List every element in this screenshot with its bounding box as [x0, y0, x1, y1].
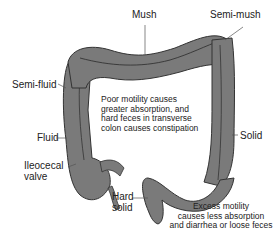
transverse-colon: [68, 36, 230, 88]
note-excess-motility: Excess motility causes less absorption a…: [166, 202, 276, 231]
note-line: colon causes constipation: [101, 124, 198, 134]
label-ileocecal-valve: Ileocecal valve: [24, 160, 63, 182]
note-line: and diarrhea or loose feces: [166, 221, 276, 231]
label-hard-solid-line1: Hard: [112, 191, 134, 202]
label-hard-solid-line2: solid: [112, 202, 134, 213]
note-poor-motility: Poor motility causes greater absorption,…: [101, 95, 198, 133]
label-fluid: Fluid: [37, 132, 59, 143]
label-mush: Mush: [132, 9, 156, 20]
label-hard-solid: Hard solid: [112, 191, 134, 213]
label-ileocecal-line1: Ileocecal: [24, 160, 63, 171]
label-solid: Solid: [240, 130, 262, 141]
label-semi-mush: Semi-mush: [210, 9, 261, 20]
label-ileocecal-line2: valve: [24, 171, 63, 182]
label-semi-fluid: Semi-fluid: [12, 79, 56, 90]
